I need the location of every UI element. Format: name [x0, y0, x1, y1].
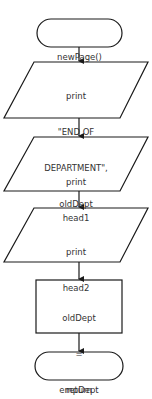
return-label-line: return: [35, 384, 123, 396]
return-label: return: [35, 360, 123, 399]
assign-line-2: =: [36, 348, 122, 360]
print1-line-2: "END OF: [20, 126, 132, 138]
print1-line-1: print: [20, 90, 132, 102]
print3-line-1: print: [20, 246, 132, 258]
print2-line-1: print: [20, 176, 132, 188]
assign-line-1: oldDept: [36, 312, 122, 324]
start-label-line: newPage(): [37, 51, 122, 63]
